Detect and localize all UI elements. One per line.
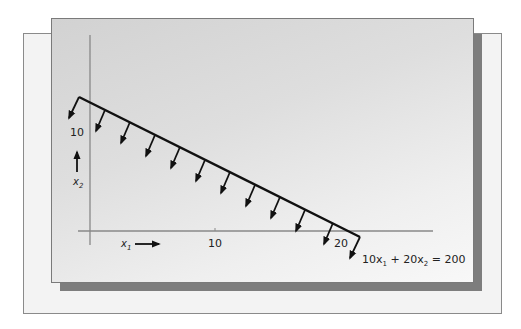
hatch-arrow-icon — [324, 223, 333, 244]
hatch-arrow-icon — [271, 197, 280, 218]
eq-term-1: 10x — [362, 253, 383, 266]
x-axis-label: x1 — [120, 238, 131, 252]
hatch-arrow-icon — [121, 122, 130, 143]
x-axis-label-sub: 1 — [127, 244, 131, 252]
hatch-arrow-icon — [296, 210, 305, 231]
y-axis-label-sub: 2 — [79, 182, 84, 190]
hatch-arrow-icon — [171, 147, 180, 168]
y-axis-label: x2 — [72, 176, 84, 190]
hatch-arrow-icon — [146, 135, 155, 156]
y-tick-label-10: 10 — [70, 126, 84, 139]
constraint-line — [79, 97, 360, 237]
constraint-diagram: 10 10 20 x2 x1 10x1 + 20x2 = 200 — [0, 0, 521, 329]
x-tick-label-10: 10 — [208, 237, 222, 250]
eq-term-2: + 20x — [387, 253, 424, 266]
hatch-arrow-icon — [96, 110, 105, 131]
x-tick-label-20: 20 — [334, 237, 348, 250]
constraint-equation: 10x1 + 20x2 = 200 — [362, 253, 465, 268]
hatch-arrow-icon — [350, 237, 360, 258]
hatch-arrow-icon — [196, 160, 205, 181]
axes — [78, 35, 433, 245]
hatch-arrow-icon — [246, 185, 255, 206]
feasible-direction-arrows — [69, 97, 360, 258]
hatch-arrow-icon — [69, 97, 79, 118]
eq-rhs: = 200 — [428, 253, 465, 266]
hatch-arrow-icon — [221, 172, 230, 193]
